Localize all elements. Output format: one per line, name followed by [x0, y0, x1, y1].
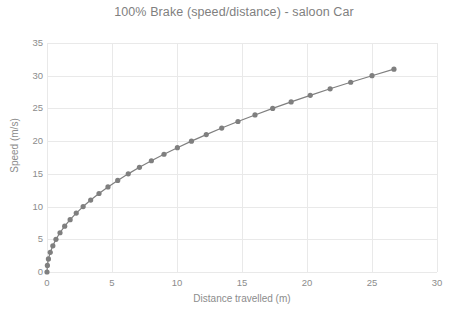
- series-line: [47, 69, 394, 272]
- x-tick-label: 20: [290, 277, 324, 288]
- data-point: [68, 217, 73, 222]
- y-tick-label: 30: [13, 71, 43, 81]
- chart-container: 100% Brake (speed/distance) - saloon Car…: [0, 0, 468, 320]
- chart-title: 100% Brake (speed/distance) - saloon Car: [0, 5, 468, 19]
- data-point: [204, 132, 209, 137]
- y-tick-label: 0: [13, 267, 43, 277]
- data-point: [369, 73, 374, 78]
- data-point: [348, 80, 353, 85]
- data-point: [328, 86, 333, 91]
- data-point: [189, 139, 194, 144]
- data-point: [235, 119, 240, 124]
- data-point: [149, 158, 154, 163]
- data-point: [161, 152, 166, 157]
- data-point: [88, 197, 93, 202]
- x-tick-label: 30: [420, 277, 454, 288]
- gridline-vertical: [437, 43, 438, 272]
- data-point: [219, 125, 224, 130]
- data-point: [62, 224, 67, 229]
- gridline-horizontal: [47, 272, 437, 273]
- data-point: [175, 145, 180, 150]
- y-tick-label: 5: [13, 234, 43, 244]
- data-point: [252, 112, 257, 117]
- data-point: [74, 211, 79, 216]
- data-point: [44, 269, 49, 274]
- data-point: [270, 106, 275, 111]
- data-point: [308, 93, 313, 98]
- x-tick-label: 15: [225, 277, 259, 288]
- data-point: [46, 256, 51, 261]
- x-tick-label: 0: [30, 277, 64, 288]
- y-axis-title: Speed (m/s): [9, 96, 20, 196]
- data-point: [96, 191, 101, 196]
- data-series-layer: [47, 43, 437, 272]
- data-point: [126, 171, 131, 176]
- data-point: [48, 250, 53, 255]
- x-tick-label: 10: [160, 277, 194, 288]
- x-tick-label: 25: [355, 277, 389, 288]
- series-markers: [44, 67, 396, 275]
- data-point: [50, 243, 55, 248]
- x-axis-title: Distance travelled (m): [47, 293, 437, 304]
- data-point: [115, 178, 120, 183]
- data-point: [57, 230, 62, 235]
- data-point: [391, 67, 396, 72]
- y-tick-label: 10: [13, 202, 43, 212]
- plot-area: [47, 43, 437, 272]
- data-point: [289, 99, 294, 104]
- data-point: [81, 204, 86, 209]
- data-point: [105, 184, 110, 189]
- data-point: [53, 237, 58, 242]
- data-point: [45, 263, 50, 268]
- data-point: [137, 165, 142, 170]
- y-tick-label: 35: [13, 38, 43, 48]
- x-tick-label: 5: [95, 277, 129, 288]
